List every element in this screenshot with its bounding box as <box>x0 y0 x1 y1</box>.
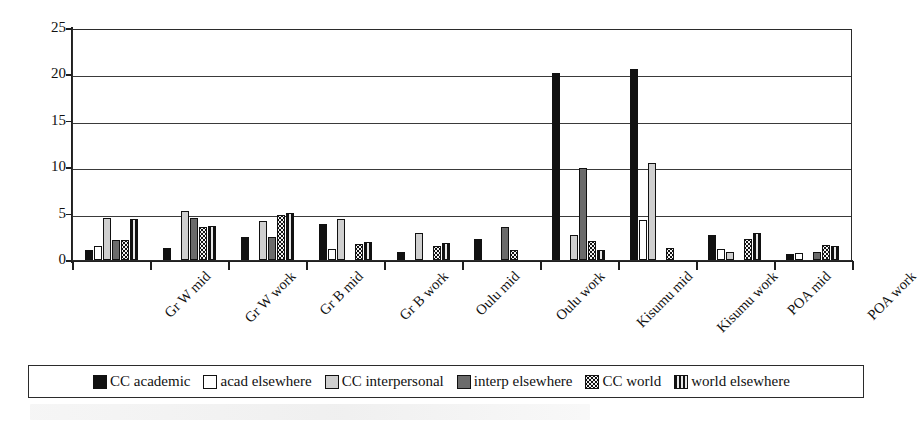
bar <box>433 246 441 260</box>
bar <box>708 235 716 260</box>
bar <box>112 240 120 260</box>
chart-legend: CC academicacad elsewhereCC interpersona… <box>28 365 864 398</box>
y-tick-label-25: 25 <box>6 20 66 35</box>
y-tick-label-15: 15 <box>6 113 66 128</box>
legend-label: CC world <box>602 374 661 389</box>
bar <box>552 73 560 260</box>
x-axis-label-gr-b-mid: Gr B mid <box>316 268 367 319</box>
legend-swatch-icon <box>457 375 471 389</box>
bar <box>355 244 363 260</box>
legend-item: acad elsewhere <box>203 374 320 389</box>
bar <box>130 219 138 260</box>
y-tick-label-5: 5 <box>6 206 66 221</box>
legend-item: world elsewhere <box>674 374 799 389</box>
bar <box>163 248 171 260</box>
bar <box>337 219 345 260</box>
bar <box>588 241 596 260</box>
bar-group <box>306 30 384 260</box>
bar <box>241 237 249 260</box>
bar <box>717 249 725 260</box>
x-axis-label-oulu-mid: Oulu mid <box>472 268 523 319</box>
bar <box>630 69 638 260</box>
bar <box>822 245 830 260</box>
bar <box>181 211 189 260</box>
bar <box>277 215 285 260</box>
bar <box>786 254 794 260</box>
legend-item: CC world <box>585 374 670 389</box>
plot-area <box>72 29 852 261</box>
bar <box>85 250 93 260</box>
legend-item: interp elsewhere <box>457 374 582 389</box>
bar <box>286 213 294 260</box>
bar <box>121 240 129 260</box>
legend-label: acad elsewhere <box>220 374 311 389</box>
legend-item: CC interpersonal <box>325 374 453 389</box>
bar <box>570 235 578 260</box>
legend-item: CC academic <box>93 374 199 389</box>
bar-group <box>695 30 773 260</box>
x-axis-label-gr-b-work: Gr B work <box>396 268 452 324</box>
legend-swatch-icon <box>585 375 599 389</box>
x-axis-category-labels: Gr W midGr W workGr B midGr B workOulu m… <box>72 262 852 340</box>
bar <box>474 239 482 260</box>
legend-label: interp elsewhere <box>474 374 573 389</box>
x-axis-label-gr-w-work: Gr W work <box>241 268 299 326</box>
legend-swatch-icon <box>325 375 339 389</box>
bar <box>795 253 803 260</box>
x-axis-label-kisumu-work: Kisumu work <box>713 268 781 336</box>
bar <box>648 163 656 260</box>
bar-group <box>229 30 307 260</box>
bar <box>726 252 734 260</box>
legend-label: world elsewhere <box>691 374 790 389</box>
legend-label: CC academic <box>110 374 190 389</box>
bar <box>328 249 336 260</box>
bar <box>415 233 423 260</box>
bar <box>364 242 372 260</box>
bar <box>510 250 518 260</box>
bar-group <box>618 30 696 260</box>
legend-swatch-icon <box>203 375 217 389</box>
bar <box>259 221 267 260</box>
bar <box>208 226 216 260</box>
bar-group <box>73 30 151 260</box>
bar <box>319 224 327 260</box>
bar <box>94 246 102 260</box>
bar-group <box>540 30 618 260</box>
y-tick-label-0: 0 <box>6 252 66 267</box>
bar-group <box>384 30 462 260</box>
bar <box>397 252 405 260</box>
x-axis-label-kisumu-mid: Kisumu mid <box>633 268 696 331</box>
bar-groups <box>73 30 851 260</box>
bar-group <box>462 30 540 260</box>
bar <box>442 243 450 260</box>
legend-label: CC interpersonal <box>342 374 444 389</box>
x-axis-label-poa-work: POA work <box>864 268 919 324</box>
x-axis-label-poa-mid: POA mid <box>784 268 834 318</box>
x-tick-mark <box>852 261 854 270</box>
bar <box>103 218 111 260</box>
bar-group <box>151 30 229 260</box>
y-tick-label-10: 10 <box>6 159 66 174</box>
legend-swatch-icon <box>674 375 688 389</box>
bar <box>744 239 752 260</box>
bar <box>579 168 587 260</box>
caption-ghost-text <box>30 404 590 420</box>
bar <box>597 250 605 260</box>
bar-group <box>773 30 851 260</box>
bar <box>813 252 821 260</box>
bar <box>268 237 276 260</box>
bar <box>199 227 207 260</box>
bar <box>666 248 674 260</box>
bar <box>190 218 198 260</box>
y-tick-label-20: 20 <box>6 66 66 81</box>
bar <box>831 246 839 260</box>
x-axis-label-oulu-work: Oulu work <box>552 268 608 324</box>
x-axis-label-gr-w-mid: Gr W mid <box>161 268 214 321</box>
bar <box>753 233 761 260</box>
legend-swatch-icon <box>93 375 107 389</box>
bar <box>639 220 647 260</box>
bar <box>501 227 509 260</box>
